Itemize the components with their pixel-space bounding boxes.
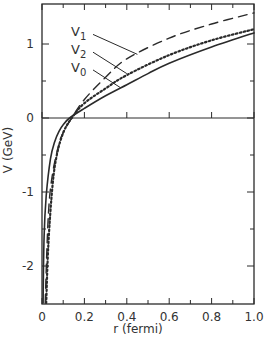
- y-tick-label: -2: [22, 259, 34, 273]
- x-tick-label: 1.0: [244, 310, 263, 324]
- y-axis-label: V (GeV): [1, 127, 15, 173]
- axis-ticks: 00.20.40.60.81.0-2-101: [22, 4, 264, 324]
- x-tick-label: 0.8: [202, 310, 221, 324]
- y-tick-label: -1: [22, 185, 34, 199]
- potential-chart: 00.20.40.60.81.0-2-101 V1V2V0 r (fermi) …: [0, 0, 267, 338]
- x-tick-label: 0.2: [75, 310, 94, 324]
- curve-label-v0: V0: [71, 60, 86, 78]
- x-tick-label: 0: [38, 310, 46, 324]
- curve-label-v1: V1: [71, 24, 86, 42]
- leader-line-v1: [93, 34, 137, 54]
- x-axis-label: r (fermi): [113, 322, 162, 336]
- y-tick-label: 0: [26, 111, 34, 125]
- y-tick-label: 1: [26, 37, 34, 51]
- curve-label-v2: V2: [71, 42, 86, 60]
